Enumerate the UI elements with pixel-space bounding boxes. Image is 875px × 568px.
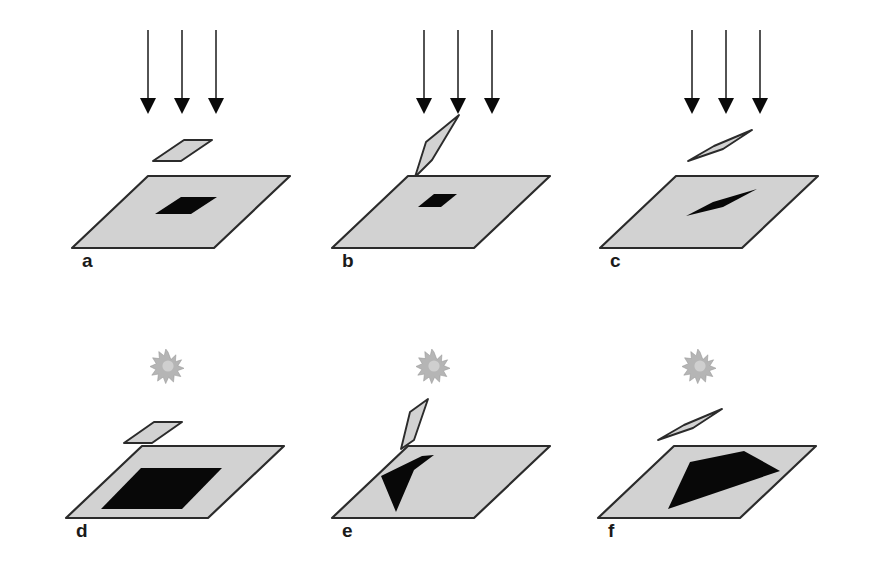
panel-label-b: b <box>342 250 354 271</box>
shadow-projection-diagram: a b <box>0 0 875 568</box>
panel-label-c: c <box>610 250 621 271</box>
panel-label-d: d <box>76 520 88 541</box>
panel-label-e: e <box>342 520 353 541</box>
figure-root: a b <box>0 0 875 568</box>
panel-label-a: a <box>82 250 93 271</box>
panel-label-f: f <box>608 520 615 541</box>
